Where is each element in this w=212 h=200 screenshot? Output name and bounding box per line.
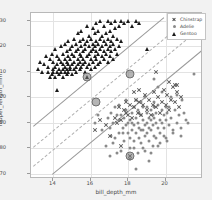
data-point-chinstrap: [144, 108, 149, 113]
legend-label: Adelie: [180, 24, 194, 29]
data-point-gentoo: [117, 24, 121, 28]
y-tick-mark: [27, 173, 30, 174]
data-point-adelie: [110, 111, 113, 114]
data-point-gentoo: [98, 37, 102, 41]
data-point-adelie: [157, 144, 160, 147]
cross-marker-icon: [170, 16, 178, 23]
gridline-horizontal: [31, 148, 201, 149]
data-point-adelie: [110, 134, 113, 137]
data-point-gentoo: [98, 60, 102, 64]
data-point-gentoo: [70, 72, 74, 76]
data-point-adelie: [138, 111, 141, 114]
data-point-adelie: [144, 124, 147, 127]
data-point-gentoo: [85, 65, 89, 69]
data-point-adelie: [134, 167, 137, 170]
x-tick-label: 16: [87, 180, 94, 186]
gridline-horizontal: [31, 123, 201, 124]
dot-marker-icon: [170, 23, 178, 30]
data-point-gentoo: [68, 47, 72, 51]
data-point-adelie: [155, 111, 158, 114]
data-point-adelie: [138, 126, 141, 129]
data-point-gentoo: [98, 47, 102, 51]
x-tick-label: 18: [124, 180, 131, 186]
data-point-gentoo: [70, 52, 74, 56]
legend-label: Chinstrap: [180, 17, 202, 22]
data-point-adelie: [130, 111, 133, 114]
data-point-chinstrap: [171, 85, 176, 90]
data-point-adelie: [160, 91, 163, 94]
data-point-gentoo: [48, 57, 52, 61]
data-point-gentoo: [72, 67, 76, 71]
data-point-adelie: [106, 116, 109, 119]
legend-item-chinstrap[interactable]: Chinstrap: [170, 16, 202, 23]
data-point-gentoo: [81, 57, 85, 61]
data-point-gentoo: [108, 29, 112, 33]
data-point-adelie: [153, 116, 156, 119]
data-point-gentoo: [61, 52, 65, 56]
data-point-gentoo: [102, 57, 106, 61]
data-point-gentoo: [96, 29, 100, 33]
data-point-adelie: [160, 109, 163, 112]
data-point-gentoo: [42, 62, 46, 66]
data-point-adelie: [144, 134, 147, 137]
data-point-chinstrap: [141, 102, 146, 107]
data-point-gentoo: [96, 42, 100, 46]
data-point-gentoo: [79, 65, 83, 69]
data-point-gentoo: [72, 37, 76, 41]
triangle-marker-icon: [170, 30, 178, 37]
data-point-gentoo: [83, 47, 87, 51]
data-point-gentoo: [81, 62, 85, 66]
data-point-adelie: [151, 144, 154, 147]
data-point-adelie: [144, 149, 147, 152]
data-point-adelie: [175, 93, 178, 96]
data-point-gentoo: [68, 65, 72, 69]
data-point-adelie: [123, 116, 126, 119]
data-point-adelie: [136, 152, 139, 155]
data-point-gentoo: [111, 34, 115, 38]
data-point-adelie: [149, 119, 152, 122]
data-point-gentoo: [74, 49, 78, 53]
data-point-adelie: [104, 144, 107, 147]
legend-item-adelie[interactable]: Adelie: [170, 23, 202, 30]
data-point-gentoo: [57, 67, 61, 71]
data-point-adelie: [134, 132, 137, 135]
data-point-gentoo: [55, 62, 59, 66]
data-point-adelie: [142, 106, 145, 109]
data-point-adelie: [114, 137, 117, 140]
data-point-adelie: [147, 160, 150, 163]
scatter-plot-figure: 17018019020021022023014161820 flipper_le…: [0, 0, 212, 200]
legend[interactable]: Chinstrap Adelie Gentoo: [167, 13, 206, 40]
data-point-adelie: [130, 129, 133, 132]
data-point-adelie: [159, 119, 162, 122]
data-point-adelie: [153, 106, 156, 109]
data-point-adelie: [170, 116, 173, 119]
data-point-chinstrap: [131, 90, 136, 95]
data-point-gentoo: [78, 52, 82, 56]
legend-item-gentoo[interactable]: Gentoo: [170, 30, 202, 37]
data-point-gentoo: [57, 72, 61, 76]
data-point-gentoo: [72, 54, 76, 58]
gridline-horizontal: [31, 174, 201, 175]
y-tick-mark: [27, 71, 30, 72]
data-point-adelie: [168, 106, 171, 109]
data-point-gentoo: [83, 42, 87, 46]
y-tick-label: 230: [0, 17, 6, 23]
data-point-adelie: [192, 73, 195, 76]
data-point-adelie: [153, 78, 156, 81]
data-point-chinstrap: [137, 87, 142, 92]
data-point-gentoo: [104, 31, 108, 35]
y-tick-mark: [27, 96, 30, 97]
data-point-adelie: [121, 132, 124, 135]
data-point-gentoo: [109, 49, 113, 53]
data-point-adelie: [121, 126, 124, 129]
gridline-vertical: [128, 13, 129, 177]
data-point-adelie: [123, 139, 126, 142]
data-point-gentoo: [122, 21, 126, 25]
data-point-adelie: [108, 155, 111, 158]
data-point-gentoo: [100, 54, 104, 58]
data-point-adelie: [140, 142, 143, 145]
data-point-adelie: [159, 142, 162, 145]
gridline-vertical: [91, 13, 92, 177]
data-point-gentoo: [94, 21, 98, 25]
data-point-gentoo: [66, 62, 70, 66]
